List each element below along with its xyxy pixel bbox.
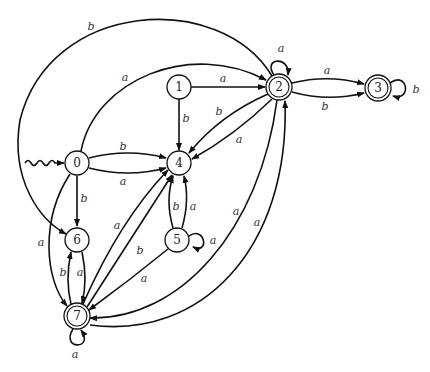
- svg-text:1: 1: [175, 80, 183, 94]
- edge-label: a: [324, 64, 331, 77]
- edge-label: a: [141, 272, 148, 285]
- state-6: 6: [65, 228, 89, 252]
- edge-7-4-a: [83, 170, 168, 304]
- edge-label: a: [254, 216, 261, 229]
- svg-text:4: 4: [175, 156, 183, 170]
- state-3-accepting: 3: [365, 75, 391, 101]
- edge-7-4-b: [87, 175, 172, 307]
- state-5: 5: [165, 228, 189, 252]
- edge-label: a: [38, 236, 45, 249]
- svg-text:2: 2: [275, 80, 283, 94]
- edge-label: a: [77, 266, 84, 279]
- state-2-accepting: 2: [266, 74, 292, 100]
- edge-5-5-a: [189, 234, 204, 249]
- edge-2-2-a: [271, 61, 288, 75]
- edge-label: a: [233, 205, 240, 218]
- edge-label: a: [220, 72, 227, 85]
- edge-2-7-a: [90, 100, 277, 318]
- edge-0-4-b: [89, 153, 166, 158]
- edge-7-2-a: [90, 101, 285, 327]
- edge-2-3-b: [292, 92, 364, 97]
- edge-label: a: [278, 42, 285, 55]
- edge-label: b: [172, 200, 179, 213]
- edge-label: b: [321, 100, 328, 113]
- edge-label: a: [236, 133, 243, 146]
- svg-text:3: 3: [374, 81, 382, 95]
- diagram-canvas: b a a b a b a b a a b b b a a a b a a: [0, 0, 430, 372]
- edge-label: b: [59, 266, 66, 279]
- automaton-diagram: b a a b a b a b a a b b b a a a b a a: [0, 0, 430, 372]
- edge-5-7-a: [89, 249, 168, 310]
- edge-0-4-a: [89, 168, 166, 173]
- edge-label: a: [120, 175, 127, 188]
- edge-label: b: [182, 112, 189, 125]
- svg-text:5: 5: [173, 233, 181, 247]
- state-4: 4: [167, 151, 191, 175]
- edge-5-4-a: [182, 176, 187, 228]
- start-arrow: [25, 161, 64, 166]
- edge-2-4-a: [192, 99, 272, 159]
- edge-2-3-a: [292, 79, 364, 84]
- edge-label: a: [72, 348, 79, 361]
- edge-label: b: [119, 140, 126, 153]
- edge-label: b: [412, 83, 419, 96]
- edge-label: b: [136, 244, 143, 257]
- svg-text:7: 7: [73, 309, 81, 323]
- edge-7-6-b: [68, 252, 71, 304]
- edge-label: b: [215, 105, 222, 118]
- state-0: 0: [65, 151, 89, 175]
- edge-label: a: [190, 200, 197, 213]
- edge-label: b: [87, 20, 94, 33]
- svg-text:0: 0: [73, 156, 81, 170]
- edge-label: b: [80, 192, 87, 205]
- edge-7-7-a: [70, 329, 84, 345]
- edge-label: a: [122, 71, 129, 84]
- edge-label: a: [114, 219, 121, 232]
- edge-2-4-b: [189, 94, 268, 153]
- state-1: 1: [167, 75, 191, 99]
- edge-label: a: [210, 234, 217, 247]
- svg-text:6: 6: [73, 233, 81, 247]
- edge-3-3-b: [390, 80, 405, 97]
- state-7-accepting: 7: [64, 303, 90, 329]
